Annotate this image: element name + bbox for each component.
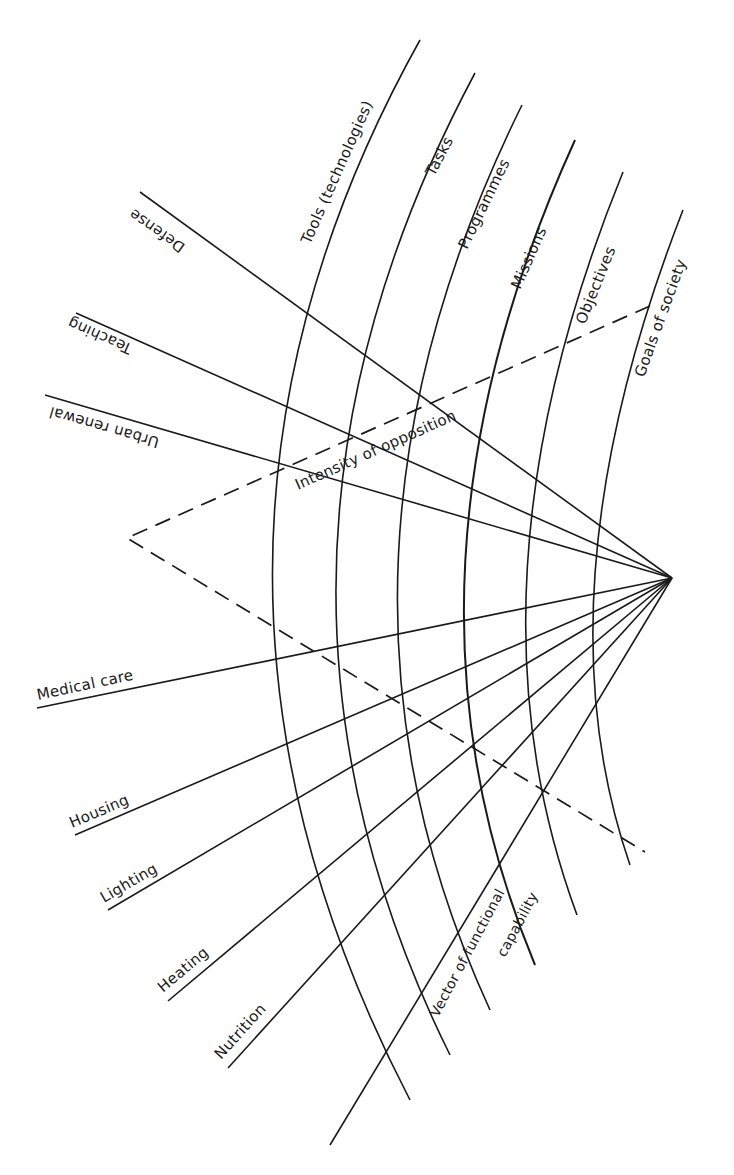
diagram-canvas: Tools (technologies) Tasks Programmes Mi… [0,0,734,1175]
dashed-boundary [127,306,650,852]
label-urban-renewal: Urban renewal [47,403,161,452]
arc-objectives [526,172,623,915]
level-labels: Tools (technologies) Tasks Programmes Mi… [297,98,690,380]
label-lighting: Lighting [97,859,161,906]
label-goals: Goals of society [631,257,690,380]
dashed-v-line [127,306,650,852]
ray-housing [75,578,672,835]
ray-heating [168,578,672,1001]
arc-tasks [336,73,475,1055]
label-missions: Missions [507,224,550,291]
label-defense: Defense [126,205,189,256]
ray-lighting [108,578,672,910]
function-labels: Defense Teaching Urban renewal Medical c… [35,205,270,1063]
label-tasks: Tasks [421,134,457,180]
ray-defense [140,192,672,578]
label-programmes: Programmes [454,156,513,252]
label-teaching: Teaching [65,314,136,359]
function-rays [37,192,672,1145]
label-tools: Tools (technologies) [297,98,377,248]
ray-bottom [330,578,672,1145]
ray-urban-renewal [45,395,672,578]
label-objectives: Objectives [572,244,619,327]
ray-medical-care [37,578,672,708]
